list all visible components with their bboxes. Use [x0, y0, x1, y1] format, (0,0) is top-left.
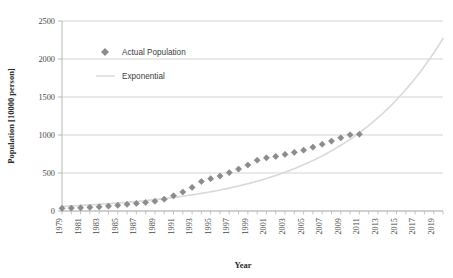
x-tick-label-2009: 2009	[334, 218, 343, 235]
y-axis-title: Population [10000 person]	[6, 68, 16, 164]
x-tick-label-1979: 1979	[55, 218, 64, 235]
x-tick-label-1995: 1995	[204, 218, 213, 235]
x-tick-label-2007: 2007	[315, 218, 324, 235]
x-axis-tick-labels: 1979198119831985198719891991199319951997…	[55, 218, 436, 235]
chart-background	[0, 0, 453, 278]
x-tick-label-2005: 2005	[297, 218, 306, 235]
x-tick-label-2001: 2001	[259, 218, 268, 235]
x-tick-label-2011: 2011	[352, 218, 361, 234]
x-tick-label-2013: 2013	[371, 218, 380, 235]
y-tick-label-1000: 1000	[38, 131, 55, 140]
y-tick-label-2500: 2500	[38, 17, 55, 26]
x-tick-label-1981: 1981	[74, 218, 83, 235]
x-tick-label-2015: 2015	[390, 218, 399, 235]
y-tick-label-2000: 2000	[38, 55, 55, 64]
x-tick-label-1987: 1987	[129, 218, 138, 235]
x-tick-label-1989: 1989	[148, 218, 157, 235]
legend-label-actual-population: Actual Population	[122, 48, 186, 57]
legend-label-exponential: Exponential	[122, 72, 165, 81]
x-axis-title: Year	[235, 260, 252, 270]
chart-canvas: 05001000150020002500 1979198119831985198…	[0, 0, 453, 278]
x-tick-label-1985: 1985	[111, 218, 120, 235]
x-tick-label-2017: 2017	[408, 218, 417, 235]
x-tick-label-1997: 1997	[222, 218, 231, 235]
y-tick-label-500: 500	[43, 169, 55, 178]
y-tick-label-0: 0	[51, 207, 55, 216]
x-tick-label-2003: 2003	[278, 218, 287, 235]
population-growth-chart: 05001000150020002500 1979198119831985198…	[0, 0, 453, 278]
x-tick-label-2019: 2019	[427, 218, 436, 235]
x-tick-label-1983: 1983	[92, 218, 101, 235]
y-tick-label-1500: 1500	[38, 93, 55, 102]
x-tick-label-1991: 1991	[167, 218, 176, 235]
x-tick-label-1993: 1993	[185, 218, 194, 235]
x-tick-label-1999: 1999	[241, 218, 250, 235]
